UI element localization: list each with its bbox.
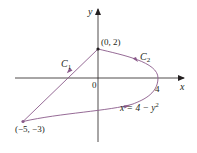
point-label-0-2: (0, 2) xyxy=(101,37,121,47)
point-label-neg5-neg3: (−5, −3) xyxy=(15,124,45,134)
x-axis-label: x xyxy=(179,81,185,92)
c1-label: C1 xyxy=(61,58,72,71)
y-axis-label: y xyxy=(87,6,93,17)
x-tick-label-4: 4 xyxy=(155,84,160,94)
c2-label: C2 xyxy=(140,51,151,64)
diagram: y x 0 4 (0, 2) (−5, −3) C1 C2 x = 4 − y2 xyxy=(0,0,197,153)
point-neg5-neg3 xyxy=(21,120,24,123)
equation-label: x = 4 − y2 xyxy=(119,101,159,113)
equation-exponent: 2 xyxy=(156,101,159,108)
c2-label-sub: 2 xyxy=(147,56,151,64)
equation-lhs: x = 4 − y xyxy=(119,103,156,113)
point-0-2 xyxy=(96,47,99,50)
origin-label: 0 xyxy=(92,80,97,90)
c1-label-sub: 1 xyxy=(68,63,72,71)
